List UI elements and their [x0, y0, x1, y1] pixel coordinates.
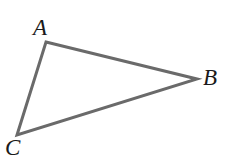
vertex-label-a: A: [33, 16, 47, 39]
vertex-label-c: C: [5, 136, 20, 159]
geometry-figure-canvas: A B C: [0, 0, 232, 159]
vertex-label-b: B: [203, 66, 217, 89]
